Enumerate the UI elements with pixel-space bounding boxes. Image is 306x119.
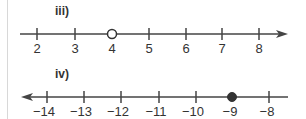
tick-label: −10 [182,104,204,119]
tick-label: −9 [223,104,238,119]
tick-label: −13 [70,104,92,119]
tick-label: 6 [182,41,189,56]
tick-label: 5 [145,41,152,56]
numberline-iv [21,91,288,103]
numberline-iv-label: iv) [55,67,69,81]
number-lines-graphic [0,0,306,119]
open-circle-point-icon [108,30,117,39]
numberline-iii [20,28,288,40]
tick-label: 7 [218,41,225,56]
closed-circle-point-icon [228,93,237,102]
tick-label: 3 [71,41,78,56]
tick-label: 8 [255,41,262,56]
tick-label: 2 [33,41,40,56]
tick-label: −11 [145,104,166,119]
tick-label: 4 [108,41,115,56]
tick-label: −14 [33,104,55,119]
tick-label: −8 [260,104,275,119]
tick-label: −12 [107,104,129,119]
